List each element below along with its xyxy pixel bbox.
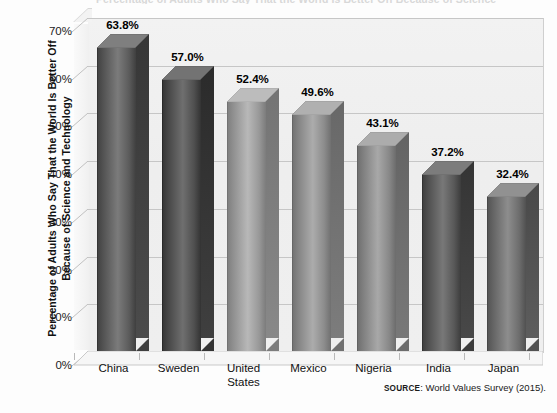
bar[interactable]	[422, 161, 460, 352]
bar[interactable]	[227, 88, 265, 352]
x-axis-tick	[269, 353, 270, 360]
source-note: SOURCE: World Values Survey (2015).	[384, 382, 546, 393]
bar-front-face	[422, 175, 461, 352]
bar-top-face	[97, 34, 149, 48]
x-axis-tick	[529, 353, 530, 360]
bar-value-label: 32.4%	[478, 168, 548, 180]
bar-side-foot	[525, 338, 539, 352]
x-axis-tick	[334, 353, 335, 360]
bar[interactable]	[292, 101, 330, 352]
bar-top-face	[357, 132, 409, 146]
bar-side-face	[395, 132, 409, 338]
bar-side-face	[330, 101, 344, 338]
bar-value-label: 57.0%	[153, 51, 223, 63]
bar-top-face	[162, 66, 214, 80]
bar-value-label: 63.8%	[88, 19, 158, 31]
bar-front-face	[357, 146, 396, 352]
bar-front-face	[97, 48, 136, 352]
bar-side-face	[135, 34, 149, 338]
plot-left-side-plane	[74, 24, 89, 350]
bar-top-face	[227, 88, 279, 102]
bar-front-face	[487, 197, 526, 352]
bar-top-face	[422, 161, 474, 175]
x-axis-category-label: Japan	[459, 361, 549, 375]
x-axis-tick	[399, 353, 400, 360]
bar-value-label: 37.2%	[413, 146, 483, 158]
y-axis-title: Percentage of Adults Who Say That the Wo…	[46, 39, 73, 339]
bar[interactable]	[97, 34, 135, 352]
bar-side-foot	[330, 338, 344, 352]
bar-top-face	[292, 101, 344, 115]
x-axis-tick	[204, 353, 205, 360]
x-axis-tick	[74, 353, 75, 360]
bar-side-foot	[200, 338, 214, 352]
clipped-chart-title: Percentage of Adults Who Say That the Wo…	[96, 0, 496, 4]
x-axis-tick	[139, 353, 140, 360]
bar-side-foot	[395, 338, 409, 352]
source-label: SOURCE	[384, 384, 420, 393]
chart-figure: Percentage of Adults Who Say That the Wo…	[0, 0, 557, 413]
bar-value-label: 52.4%	[218, 73, 288, 85]
x-axis: ChinaSwedenUnitedStatesMexicoNigeriaIndi…	[0, 352, 557, 402]
bar-side-foot	[460, 338, 474, 352]
source-text: : World Values Survey (2015).	[420, 382, 546, 393]
bar-side-face	[460, 161, 474, 338]
bar-top-face	[487, 183, 539, 197]
y-axis-tick-label: 70%	[26, 26, 72, 38]
bar-side-face	[525, 183, 539, 338]
bar-front-face	[162, 80, 201, 352]
bar-front-face	[227, 102, 266, 352]
bar-side-face	[200, 66, 214, 338]
bar-value-label: 43.1%	[348, 117, 418, 129]
bar-side-foot	[265, 338, 279, 352]
bar-side-foot	[135, 338, 149, 352]
bar[interactable]	[487, 183, 525, 352]
bar-series: 63.8%57.0%52.4%49.6%43.1%37.2%32.4%	[88, 18, 543, 352]
x-axis-tick	[464, 353, 465, 360]
bar-value-label: 49.6%	[283, 86, 353, 98]
bar-front-face	[292, 115, 331, 352]
bar[interactable]	[162, 66, 200, 352]
bar[interactable]	[357, 132, 395, 352]
bar-side-face	[265, 88, 279, 338]
